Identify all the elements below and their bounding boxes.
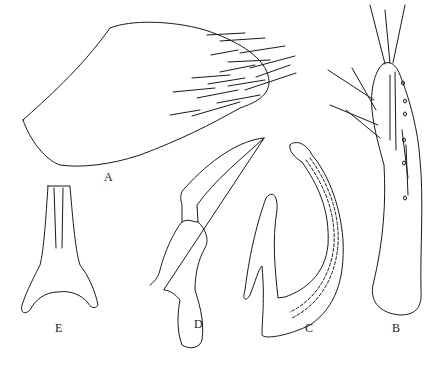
figure-canvas [0,0,442,366]
label-b: B [392,322,400,334]
label-a: A [104,171,113,183]
label-e: E [55,322,62,334]
setae-cluster [170,33,296,116]
panel-a-drawing [23,22,296,166]
panel-c-drawing [244,143,343,337]
label-d: D [194,318,203,330]
panel-d-drawing [150,138,264,348]
label-c: C [305,322,313,334]
setae-b [328,5,408,200]
panel-e-drawing [22,186,98,313]
